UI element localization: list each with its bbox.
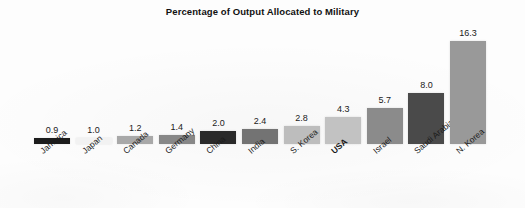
plot-area: 0.9Jamaica1.0Japan1.2Canada1.4Germany2.0… xyxy=(0,0,525,208)
bar-group: 2.4India xyxy=(242,129,278,144)
bar-value-label: 8.0 xyxy=(400,80,452,90)
bar-group: 2.8S. Korea xyxy=(284,126,320,144)
bar-group: 5.7Israel xyxy=(367,108,403,144)
bar-value-label: 2.8 xyxy=(276,113,328,123)
bar-value-label: 4.3 xyxy=(317,104,369,114)
bar-value-label: 5.7 xyxy=(359,95,411,105)
bar-group: 0.9Jamaica xyxy=(34,138,70,144)
bar-category-label: Japan xyxy=(80,133,104,156)
bar-group: 1.2Canada xyxy=(117,136,153,144)
bar-group: 8.0Saudi Arabia xyxy=(408,93,444,144)
bar-chart-figure: Percentage of Output Allocated to Milita… xyxy=(0,0,525,208)
bar-value-label: 16.3 xyxy=(442,28,494,38)
bar-group: 1.4Germany xyxy=(159,135,195,144)
bar-group: 4.3USA xyxy=(325,117,361,144)
bar-group: 16.3N. Korea xyxy=(450,41,486,144)
bar-group: 2.0China xyxy=(200,131,236,144)
bar-group: 1.0Japan xyxy=(76,138,112,144)
